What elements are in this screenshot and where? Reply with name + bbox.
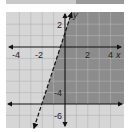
x-tick-label: -2 <box>35 50 43 60</box>
y-tick-label: -4 <box>54 88 62 98</box>
y-tick-label: -6 <box>54 111 62 121</box>
x-tick-label: 4 <box>108 50 113 60</box>
inequality-graph: -4 -2 2 4 x 2 -4 -6 y <box>0 0 132 132</box>
y-tick-label: 2 <box>57 20 62 30</box>
x-tick-label: -4 <box>12 50 20 60</box>
x-tick-label: 2 <box>85 50 90 60</box>
y-axis-label: y <box>72 10 78 20</box>
x-axis-label: x <box>115 50 121 60</box>
